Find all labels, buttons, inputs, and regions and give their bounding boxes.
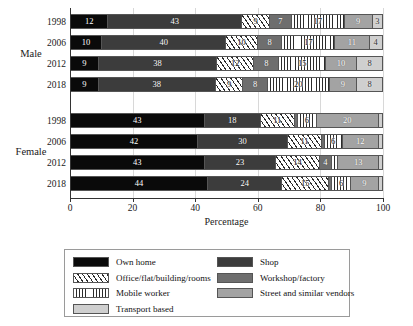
- legend-item-workshop[interactable]: Workshop/factory: [217, 271, 354, 286]
- legend-swatch-workshop: [217, 273, 253, 283]
- stacked-bar[interactable]: 43181116201: [70, 113, 383, 128]
- stacked-bar[interactable]: 938982098: [70, 77, 383, 92]
- stacked-bar[interactable]: 4424151691: [70, 176, 383, 191]
- bar-segment-workshop[interactable]: 8: [258, 36, 283, 49]
- stacked-bar[interactable]: 104010817114: [70, 35, 383, 50]
- segment-value-label: 18: [228, 116, 237, 125]
- bar-segment-transport[interactable]: 3: [373, 15, 382, 28]
- x-axis-tick-label: 40: [190, 203, 200, 213]
- x-axis-tick: [320, 198, 321, 202]
- bar-segment-office[interactable]: 9: [242, 15, 270, 28]
- bar-segment-office[interactable]: 11: [288, 135, 321, 148]
- segment-value-label: 8: [253, 80, 257, 89]
- legend-label: Transport based: [116, 304, 173, 314]
- x-axis-tick-label: 60: [253, 203, 263, 213]
- legend-label: Mobile worker: [116, 288, 170, 298]
- segment-value-label: 11: [348, 38, 356, 47]
- bar-segment-shop[interactable]: 38: [99, 78, 216, 91]
- bar-segment-transport[interactable]: 4: [370, 36, 382, 49]
- bar-segment-transport[interactable]: 1: [379, 156, 382, 169]
- legend-swatch-office: [73, 273, 109, 283]
- bar-segment-own[interactable]: 10: [71, 36, 102, 49]
- bar-segment-office[interactable]: 9: [216, 78, 244, 91]
- legend-item-own[interactable]: Own home: [73, 255, 211, 270]
- legend-item-mobile[interactable]: Mobile worker: [73, 286, 211, 301]
- bar-segment-office[interactable]: 12: [217, 57, 254, 70]
- bar-segment-street[interactable]: 9: [345, 15, 373, 28]
- y-axis-tick-label: 2018: [47, 179, 66, 189]
- legend-label: Street and similar vendors: [260, 288, 354, 298]
- legend-item-office[interactable]: Office/flat/building/rooms: [73, 271, 211, 286]
- bar-segment-own[interactable]: 9: [71, 57, 99, 70]
- bar-segment-own[interactable]: 9: [71, 78, 99, 91]
- segment-value-label: 3: [375, 17, 379, 26]
- bar-segment-street[interactable]: 9: [351, 177, 379, 190]
- bar-segment-transport[interactable]: 8: [357, 78, 382, 91]
- bar-segment-street[interactable]: 13: [338, 156, 378, 169]
- segment-value-label: 8: [368, 80, 372, 89]
- x-axis-line: [70, 198, 383, 199]
- bar-segment-shop[interactable]: 23: [205, 156, 277, 169]
- bar-segment-street[interactable]: 10: [326, 57, 357, 70]
- segment-value-label: 9: [253, 17, 257, 26]
- bar-segment-mobile[interactable]: 6: [298, 114, 317, 127]
- bar-segment-own[interactable]: 12: [71, 15, 108, 28]
- bar-segment-workshop[interactable]: 4: [320, 156, 332, 169]
- stacked-bar[interactable]: 43231442131: [70, 155, 383, 170]
- bar-segment-own[interactable]: 43: [71, 114, 205, 127]
- segment-value-label: 9: [227, 80, 231, 89]
- stacked-bar[interactable]: 1243971793: [70, 14, 383, 29]
- bar-segment-mobile[interactable]: 17: [292, 15, 345, 28]
- bar-segment-street[interactable]: 11: [335, 36, 369, 49]
- legend-item-street[interactable]: Street and similar vendors: [217, 286, 354, 301]
- bar-segment-mobile[interactable]: 6: [325, 135, 343, 148]
- stacked-bar[interactable]: 42301116121: [70, 134, 383, 149]
- segment-value-label: 24: [240, 179, 249, 188]
- segment-value-label: 6: [331, 137, 335, 146]
- segment-value-label: 10: [337, 59, 346, 68]
- y-axis-line: [70, 8, 71, 198]
- segment-value-label: 13: [354, 158, 363, 167]
- bar-segment-own[interactable]: 43: [71, 156, 205, 169]
- segment-value-label: 7: [278, 17, 282, 26]
- bar-segment-office[interactable]: 15: [282, 177, 329, 190]
- bar-segment-mobile[interactable]: 6: [332, 177, 351, 190]
- bar-segment-shop[interactable]: 38: [99, 57, 217, 70]
- bar-segment-street[interactable]: 20: [317, 114, 379, 127]
- stacked-bar-chart: 1998124397179320061040108171142012938128…: [0, 0, 413, 326]
- stacked-bar[interactable]: 93812815108: [70, 56, 383, 71]
- bar-segment-workshop[interactable]: 7: [270, 15, 292, 28]
- legend-item-shop[interactable]: Shop: [217, 255, 354, 270]
- bar-segment-shop[interactable]: 24: [208, 177, 283, 190]
- legend-item-transport[interactable]: Transport based: [73, 302, 211, 317]
- bar-segment-street[interactable]: 9: [330, 78, 358, 91]
- x-axis-title: Percentage: [70, 216, 383, 227]
- bar-segment-office[interactable]: 11: [261, 114, 295, 127]
- bar-segment-mobile[interactable]: 17: [282, 36, 335, 49]
- bar-segment-transport[interactable]: 8: [357, 57, 382, 70]
- bar-segment-shop[interactable]: 40: [102, 36, 226, 49]
- bar-segment-workshop[interactable]: 8: [243, 78, 268, 91]
- bar-segment-transport[interactable]: 1: [379, 177, 382, 190]
- bar-segment-shop[interactable]: 18: [205, 114, 261, 127]
- bar-segment-mobile[interactable]: 20: [268, 78, 330, 91]
- bar-segment-transport[interactable]: 1: [379, 135, 382, 148]
- legend-label: Workshop/factory: [260, 273, 325, 283]
- x-axis-tick: [195, 198, 196, 202]
- bar-segment-transport[interactable]: 1: [379, 114, 382, 127]
- bar-segment-mobile[interactable]: 15: [279, 57, 326, 70]
- bar-segment-own[interactable]: 44: [71, 177, 208, 190]
- bar-segment-office[interactable]: 10: [226, 36, 257, 49]
- bar-segment-shop[interactable]: 43: [108, 15, 242, 28]
- bar-segment-workshop[interactable]: 8: [254, 57, 279, 70]
- legend-label: Own home: [116, 257, 156, 267]
- bar-segment-shop[interactable]: 30: [198, 135, 289, 148]
- bar-segment-office[interactable]: 14: [276, 156, 320, 169]
- segment-value-label: 20: [294, 80, 303, 89]
- y-axis-tick-label: 2012: [47, 59, 66, 69]
- segment-value-label: 10: [237, 38, 246, 47]
- x-axis-tick: [133, 198, 134, 202]
- bar-segment-street[interactable]: 12: [343, 135, 379, 148]
- segment-value-label: 38: [153, 59, 162, 68]
- bar-segment-own[interactable]: 42: [71, 135, 198, 148]
